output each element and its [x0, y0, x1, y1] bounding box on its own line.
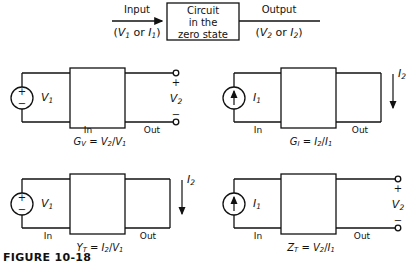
- source-label-i1: I1: [253, 198, 261, 210]
- formula-eq: =: [298, 242, 313, 253]
- in-label: In: [254, 232, 262, 241]
- formula-gi: GI = I2/I1: [290, 137, 332, 148]
- formula-num: V: [101, 136, 108, 147]
- formula-lhs: G: [290, 136, 298, 147]
- source-label-v1: V1: [41, 92, 53, 104]
- paren-close: ): [298, 26, 302, 39]
- source-plus-sign: +: [18, 193, 26, 203]
- in-label: In: [44, 232, 52, 241]
- block-input-sublabel: (V1 or I1): [113, 27, 160, 39]
- source-plus-sign: +: [18, 87, 26, 97]
- source-minus-sign: −: [18, 99, 26, 109]
- source-var: V: [41, 91, 49, 104]
- output-var-sub: 2: [401, 72, 406, 81]
- formula-den-sub: 1: [328, 140, 332, 148]
- figure-caption: FIGURE 10-18: [3, 252, 91, 263]
- terminal-minus-sign: −: [172, 110, 180, 120]
- terminal-plus-sign: +: [394, 184, 402, 194]
- block-input-label: Input: [124, 5, 150, 15]
- output-var-sub: 2: [399, 203, 404, 212]
- block-output-label: Output: [262, 5, 297, 15]
- source-label-v1: V1: [41, 198, 53, 210]
- formula-lhs: Z: [287, 242, 294, 253]
- block-output-sublabel: (V2 or I2): [255, 27, 302, 39]
- out-label: Out: [140, 232, 156, 241]
- circuit-line-art: [0, 0, 417, 270]
- input-var-1: V: [118, 26, 126, 39]
- source-var-sub: 1: [49, 202, 54, 211]
- block-box-line-1: Circuit: [187, 6, 219, 16]
- output-var-1: V: [260, 26, 268, 39]
- output-label-i2: I2: [187, 174, 195, 186]
- formula-num: V: [313, 242, 320, 253]
- out-label: Out: [144, 126, 160, 135]
- source-var-sub: 1: [49, 96, 54, 105]
- terminal-minus-sign: −: [394, 216, 402, 226]
- formula-eq: =: [300, 136, 315, 147]
- circuit-voltage-gain-graphics: [11, 68, 179, 128]
- figure-10-18: Input (V1 or I1) Circuit in the zero sta…: [0, 0, 417, 270]
- source-label-i1: I1: [253, 92, 261, 104]
- source-var-sub: 1: [256, 202, 261, 211]
- circuit-transfer-admittance-graphics: [11, 174, 182, 234]
- formula-den: V: [112, 242, 119, 253]
- terminal-plus-sign: +: [172, 78, 180, 88]
- output-var: V: [392, 198, 400, 211]
- formula-gv: GV = V2/V1: [74, 137, 127, 148]
- output-var-sub: 2: [177, 97, 182, 106]
- in-label: In: [254, 126, 262, 135]
- formula-den-sub: 1: [122, 140, 126, 148]
- source-minus-sign: −: [18, 205, 26, 215]
- formula-den: V: [115, 136, 122, 147]
- output-label-v2: V2: [392, 199, 404, 211]
- block-box-line-3: zero state: [178, 30, 228, 40]
- formula-lhs: G: [74, 136, 82, 147]
- output-or: or: [272, 26, 290, 39]
- out-label: Out: [354, 232, 370, 241]
- out-label: Out: [352, 126, 368, 135]
- formula-den-sub: 1: [330, 246, 334, 254]
- in-label: In: [84, 126, 92, 135]
- paren-close: ): [156, 26, 160, 39]
- input-or: or: [130, 26, 148, 39]
- circuit-current-gain-graphics: [223, 68, 393, 128]
- source-var: V: [41, 197, 49, 210]
- source-var-sub: 1: [256, 96, 261, 105]
- formula-zt: ZT = V2/I1: [287, 243, 335, 254]
- formula-eq: =: [86, 136, 101, 147]
- output-var-sub: 2: [190, 178, 195, 187]
- output-var: V: [170, 92, 178, 105]
- block-box-line-2: in the: [189, 18, 218, 28]
- formula-den-sub: 1: [119, 246, 123, 254]
- output-label-v2: V2: [170, 93, 182, 105]
- circuit-transfer-impedance-graphics: [223, 174, 401, 234]
- output-label-i2: I2: [398, 68, 406, 80]
